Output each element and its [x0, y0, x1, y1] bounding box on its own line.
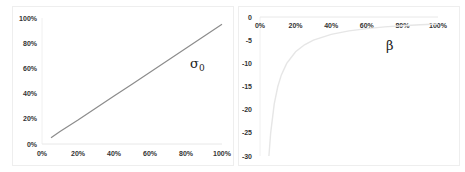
x-tick-label: 100%	[429, 22, 448, 29]
x-tick-label: 40%	[107, 150, 122, 157]
x-tick-label: 60%	[143, 150, 158, 157]
y-tick-label: 0	[248, 14, 252, 21]
x-tick-label: 100%	[213, 150, 232, 157]
y-tick-label: -20	[242, 106, 252, 113]
x-tick-label: 0%	[37, 150, 48, 157]
beta-chart-plot: 0-5-10-15-20-25-300%20%40%60%80%100%β	[238, 6, 460, 166]
chart-frame	[13, 7, 234, 166]
sigma0-chart: 0%20%40%60%80%100%0%20%40%60%80%100%σ0	[12, 6, 234, 166]
beta-chart: 0-5-10-15-20-25-300%20%40%60%80%100%β	[238, 6, 460, 166]
y-tick-label: -5	[246, 37, 252, 44]
y-tick-label: -10	[242, 60, 252, 67]
x-tick-label: 80%	[179, 150, 194, 157]
x-tick-label: 20%	[71, 150, 86, 157]
y-tick-label: 60%	[23, 65, 38, 72]
y-tick-label: -25	[242, 129, 252, 136]
sigma0-chart-plot: 0%20%40%60%80%100%0%20%40%60%80%100%σ0	[12, 6, 234, 166]
x-tick-label: 0%	[255, 22, 266, 29]
y-tick-label: 100%	[19, 15, 38, 22]
x-tick-label: 40%	[324, 22, 339, 29]
beta-annotation: β	[386, 38, 394, 53]
y-tick-label: 40%	[23, 90, 38, 97]
y-tick-label: 80%	[23, 40, 38, 47]
y-tick-label: 0%	[27, 141, 38, 148]
y-tick-label: -15	[242, 83, 252, 90]
x-tick-label: 20%	[289, 22, 304, 29]
y-tick-label: -30	[242, 153, 252, 160]
y-tick-label: 20%	[23, 115, 38, 122]
